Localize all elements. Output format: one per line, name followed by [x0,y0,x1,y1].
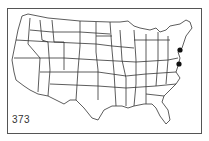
map-marker-northeast-2 [176,61,181,66]
figure-number: 373 [12,114,30,125]
map-marker-northeast-1 [177,47,182,52]
us-map [0,0,209,141]
